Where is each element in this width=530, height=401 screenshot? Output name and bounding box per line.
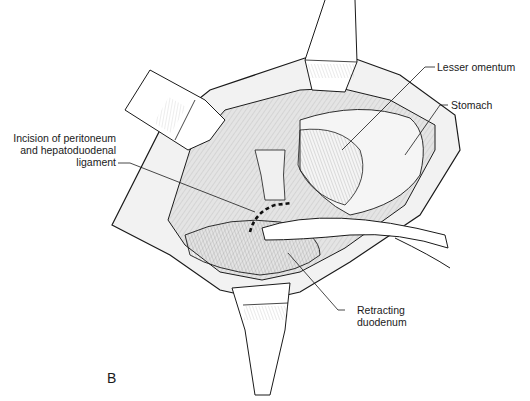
label-incision: Incision of peritoneum and hepatoduodena…: [10, 132, 116, 168]
label-retracting-duodenum: Retracting duodenum: [357, 304, 407, 328]
label-retracting-line2: duodenum: [357, 316, 407, 328]
panel-letter: B: [107, 370, 116, 386]
label-lesser-omentum: Lesser omentum: [437, 61, 515, 73]
label-incision-line2: and hepatoduodenal: [10, 144, 116, 156]
label-retracting-line1: Retracting: [357, 304, 407, 316]
label-incision-line3: ligament: [10, 156, 116, 168]
retractor-bottom: [232, 283, 290, 395]
label-incision-line1: Incision of peritoneum: [10, 132, 116, 144]
retractor-top: [305, 0, 357, 92]
retractor-left: [125, 70, 225, 150]
label-stomach: Stomach: [451, 99, 492, 111]
